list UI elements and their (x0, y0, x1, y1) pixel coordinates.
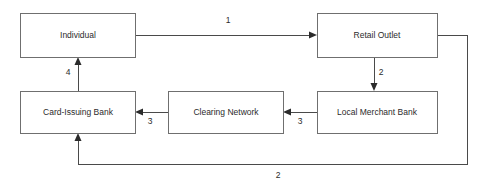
node-local-merchant-bank-label: Local Merchant Bank (337, 107, 418, 117)
edge-label-6: 2 (276, 170, 281, 180)
edge-clearing-network-to-card-issuing-bank (135, 109, 168, 116)
edge-local-merchant-bank-to-clearing-network (283, 109, 317, 116)
node-clearing-network-label: Clearing Network (193, 107, 259, 117)
edge-card-issuing-bank-to-individual (75, 57, 82, 91)
edge-label-3: 3 (298, 116, 303, 126)
edge-label-5: 4 (66, 67, 71, 77)
node-retail-outlet-label: Retail Outlet (354, 30, 401, 40)
arrow-head-4 (135, 109, 143, 116)
node-card-issuing-bank[interactable]: Card-Issuing Bank (21, 92, 136, 134)
edge-label-2: 2 (379, 67, 384, 77)
arrow-head-1 (309, 32, 317, 39)
flowchart-canvas: Individual Retail Outlet Card-Issuing Ba… (0, 0, 486, 189)
node-local-merchant-bank[interactable]: Local Merchant Bank (318, 92, 438, 134)
edge-individual-to-retail-outlet (135, 32, 317, 39)
node-individual[interactable]: Individual (21, 14, 136, 58)
edge-label-4: 3 (148, 116, 153, 126)
edge-retail-outlet-to-local-merchant-bank (371, 57, 378, 91)
node-clearing-network[interactable]: Clearing Network (169, 92, 284, 134)
arrow-head-3 (283, 109, 291, 116)
flowchart-diagram: Individual Retail Outlet Card-Issuing Ba… (0, 0, 486, 189)
arrow-head-6 (75, 133, 82, 141)
arrow-head-5 (75, 57, 82, 65)
node-card-issuing-bank-label: Card-Issuing Bank (43, 107, 114, 117)
arrow-head-2 (371, 83, 378, 91)
node-retail-outlet[interactable]: Retail Outlet (318, 14, 438, 58)
edge-label-1: 1 (226, 15, 231, 25)
node-individual-label: Individual (60, 30, 96, 40)
